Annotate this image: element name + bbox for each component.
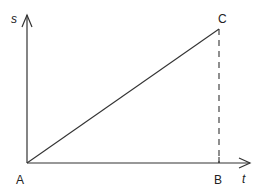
line-ac — [27, 29, 219, 163]
y-axis-label: s — [11, 12, 17, 26]
s-t-graph: s t A B C — [0, 0, 261, 192]
point-b-label: B — [214, 173, 222, 187]
point-a-label: A — [16, 173, 24, 187]
x-axis-label: t — [242, 172, 246, 186]
point-c-label: C — [218, 12, 227, 26]
